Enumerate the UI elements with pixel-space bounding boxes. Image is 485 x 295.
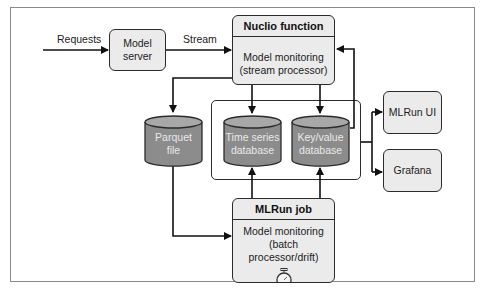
nuclio-function-node[interactable]: Nuclio function Model monitoring (stream… bbox=[232, 15, 335, 85]
nuclio-line2: (stream processor) bbox=[239, 64, 327, 77]
time-series-database-cylinder[interactable]: Time seriesdatabase bbox=[223, 115, 282, 167]
key-value-database-cylinder[interactable]: Key/valuedatabase bbox=[291, 115, 350, 167]
mlrun-job-line1: Model monitoring bbox=[243, 225, 324, 238]
stream-label: Stream bbox=[183, 33, 217, 45]
stopwatch-icon bbox=[275, 268, 293, 283]
keyvalue-line1: Key/value bbox=[297, 131, 343, 143]
requests-label: Requests bbox=[57, 33, 101, 45]
grafana-label: Grafana bbox=[394, 164, 432, 177]
nuclio-function-header: Nuclio function bbox=[233, 16, 334, 37]
model-server-label: Model server bbox=[118, 37, 158, 62]
mlrun-job-node[interactable]: MLRun job Model monitoring (batch proces… bbox=[232, 198, 335, 283]
parquet-line2: file bbox=[167, 144, 180, 156]
timeseries-line1: Time series bbox=[226, 131, 280, 143]
keyvalue-line2: database bbox=[299, 144, 342, 156]
parquet-line1: Parquet bbox=[155, 131, 192, 143]
grafana-node[interactable]: Grafana bbox=[383, 149, 442, 192]
parquet-file-cylinder[interactable]: Parquetfile bbox=[144, 115, 203, 167]
timeseries-line2: database bbox=[231, 144, 274, 156]
model-server-node[interactable]: Model server bbox=[109, 29, 166, 71]
mlrun-ui-label: MLRun UI bbox=[389, 106, 436, 119]
mlrun-job-line2: (batch processor/drift) bbox=[233, 238, 334, 264]
mlrun-ui-node[interactable]: MLRun UI bbox=[383, 91, 442, 134]
nuclio-line1: Model monitoring bbox=[243, 51, 324, 64]
mlrun-job-header: MLRun job bbox=[233, 199, 334, 220]
